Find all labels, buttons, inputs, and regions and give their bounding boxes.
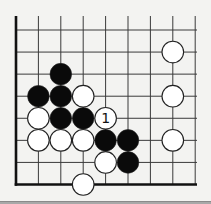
move-number-label: 1 <box>101 110 110 126</box>
go-board: 1 <box>0 0 211 204</box>
white-stone <box>162 85 184 107</box>
white-stone <box>162 41 184 63</box>
black-stone <box>50 63 72 85</box>
white-stone <box>28 107 50 129</box>
white-stone <box>162 130 184 152</box>
black-stone <box>72 107 94 129</box>
black-stone <box>95 130 117 152</box>
black-stone <box>50 107 72 129</box>
black-stone <box>28 85 50 107</box>
white-stone <box>72 85 94 107</box>
page-bottom-border <box>0 201 211 204</box>
white-stone <box>50 130 72 152</box>
white-stone <box>72 174 94 196</box>
black-stone <box>117 152 139 174</box>
black-stone <box>117 130 139 152</box>
white-stone: 1 <box>95 107 117 129</box>
white-stone <box>28 130 50 152</box>
white-stone <box>95 152 117 174</box>
white-stone <box>72 130 94 152</box>
black-stone <box>50 85 72 107</box>
